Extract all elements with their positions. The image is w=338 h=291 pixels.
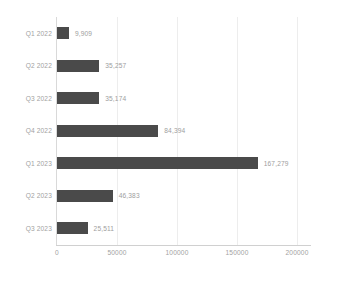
x-tick-label: 50000 — [107, 249, 126, 256]
bar-value-label: 84,394 — [164, 127, 185, 134]
bar-row: Q1 2023 167,279 — [0, 147, 338, 180]
category-label: Q4 2022 — [0, 127, 52, 134]
x-axis-tick-labels: 0 50000 100000 150000 200000 — [0, 249, 338, 263]
bar[interactable] — [57, 27, 69, 39]
x-tick-label: 200000 — [286, 249, 309, 256]
x-tick-label: 100000 — [166, 249, 189, 256]
bar-row: Q1 2022 9,909 — [0, 17, 338, 50]
bar-row: Q2 2023 46,383 — [0, 180, 338, 213]
bar-chart: Q1 2022 9,909 Q2 2022 35,257 Q3 2022 35,… — [0, 0, 338, 291]
bar-row: Q2 2022 35,257 — [0, 50, 338, 83]
bar-value-label: 25,511 — [94, 225, 115, 232]
bar-value-label: 35,174 — [105, 95, 126, 102]
category-label: Q1 2022 — [0, 30, 52, 37]
bar-value-label: 35,257 — [105, 62, 126, 69]
bar[interactable] — [57, 190, 113, 202]
x-tick-label: 0 — [55, 249, 59, 256]
bar[interactable] — [57, 222, 88, 234]
bar-value-label: 9,909 — [75, 30, 92, 37]
bar-row: Q4 2022 84,394 — [0, 115, 338, 148]
category-label: Q1 2023 — [0, 160, 52, 167]
category-label: Q3 2022 — [0, 95, 52, 102]
x-tick-label: 150000 — [226, 249, 249, 256]
bar[interactable] — [57, 157, 258, 169]
bar[interactable] — [57, 125, 158, 137]
bar-value-label: 46,383 — [119, 192, 140, 199]
value-axis-line — [56, 245, 311, 246]
bar[interactable] — [57, 60, 99, 72]
category-label: Q3 2023 — [0, 225, 52, 232]
category-label: Q2 2023 — [0, 192, 52, 199]
bar-row: Q3 2023 25,511 — [0, 212, 338, 245]
bar-rows: Q1 2022 9,909 Q2 2022 35,257 Q3 2022 35,… — [0, 17, 338, 245]
category-label: Q2 2022 — [0, 62, 52, 69]
bar-row: Q3 2022 35,174 — [0, 82, 338, 115]
bar[interactable] — [57, 92, 99, 104]
bar-value-label: 167,279 — [264, 160, 289, 167]
